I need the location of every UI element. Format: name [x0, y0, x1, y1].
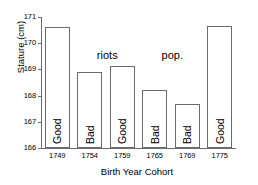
x-axis-line: [41, 148, 236, 149]
bar: Good: [207, 26, 232, 148]
bar: Good: [110, 66, 135, 148]
bar-label: Bad: [84, 125, 96, 144]
bar-label-wrap: Good: [111, 100, 134, 144]
bar-label: Good: [116, 118, 128, 144]
bar-label-wrap: Good: [46, 100, 69, 144]
bar-label-wrap: Good: [208, 100, 231, 144]
y-tick-mark: [38, 148, 42, 149]
y-tick-label: 167: [14, 118, 36, 126]
x-tick-label: 1765: [141, 152, 169, 160]
bar: Good: [45, 27, 70, 148]
x-tick-label: 1754: [76, 152, 104, 160]
x-tick-label: 1759: [108, 152, 136, 160]
bar-label-wrap: Bad: [143, 100, 166, 144]
plot-area: GoodBadGoodBadBadGood: [41, 17, 236, 148]
y-tick-label: 169: [14, 65, 36, 73]
bar: Bad: [77, 72, 102, 148]
x-axis-title: Birth Year Cohort: [0, 166, 258, 177]
bar-label: Good: [214, 118, 226, 144]
annotation-label: riots: [92, 50, 122, 61]
y-tick-label: 171: [14, 13, 36, 21]
y-tick-label: 168: [14, 92, 36, 100]
x-axis-title-text: Birth Year Cohort: [101, 166, 173, 177]
bar-label-wrap: Bad: [78, 100, 101, 144]
bar-label: Bad: [149, 125, 161, 144]
bar-label: Good: [51, 118, 63, 144]
x-tick-label: 1775: [206, 152, 234, 160]
x-tick-label: 1769: [173, 152, 201, 160]
bar: Bad: [142, 90, 167, 148]
y-tick-label: 170: [14, 39, 36, 47]
annotation-label: pop.: [157, 50, 187, 61]
x-tick-label: 1749: [43, 152, 71, 160]
bar-label: Bad: [181, 125, 193, 144]
y-tick-label: 166: [14, 144, 36, 152]
bar-chart: Stature (cm) 166167168169170171 GoodBadG…: [0, 0, 258, 185]
bar-label-wrap: Bad: [176, 100, 199, 144]
bar: Bad: [175, 104, 200, 148]
